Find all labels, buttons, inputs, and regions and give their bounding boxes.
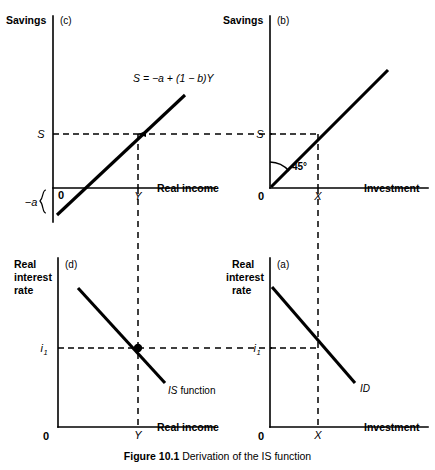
panel-a-id-label: (a) bbox=[277, 259, 289, 270]
panel-b-y-tick-label: S bbox=[256, 128, 264, 140]
panel-b-angle-label: 45° bbox=[292, 161, 307, 172]
panel-a: Real interest rate (a) i1 X 0 Investment… bbox=[226, 258, 428, 442]
panel-c-intercept-brace bbox=[40, 190, 46, 213]
panel-d-is-curve bbox=[78, 288, 165, 383]
panel-c-id-label: (c) bbox=[60, 15, 72, 26]
panel-a-curve-label: ID bbox=[360, 383, 370, 394]
panel-b-id-label: (b) bbox=[277, 15, 289, 26]
panel-d-id-label: (d) bbox=[65, 259, 77, 270]
panel-a-x-axis-label: Investment bbox=[364, 421, 420, 433]
panel-d-y-tick-label: i1 bbox=[40, 342, 47, 357]
panel-c-x-tick-label: Y bbox=[134, 190, 142, 202]
panel-b-45-degree-line bbox=[271, 70, 388, 187]
panel-d-x-tick-label: Y bbox=[134, 429, 142, 441]
figure-container: Savings (c) S Y 0 −a Real income S = −a … bbox=[0, 0, 435, 470]
panel-b-x-tick-label: X bbox=[313, 190, 322, 202]
panel-a-origin-label: 0 bbox=[258, 430, 264, 442]
panel-d-y-axis-label-line3: rate bbox=[14, 284, 33, 296]
panel-d-intersection-dot bbox=[134, 344, 142, 352]
panel-d: Real interest rate (d) i1 Y 0 Real incom… bbox=[14, 258, 219, 442]
panel-c: Savings (c) S Y 0 −a Real income S = −a … bbox=[6, 14, 219, 222]
panel-c-intercept-label: −a bbox=[25, 196, 38, 208]
panel-a-y-axis-label-line2: interest bbox=[226, 271, 264, 283]
panel-a-x-tick-label: X bbox=[313, 429, 322, 441]
panel-b-x-axis-label: Investment bbox=[364, 182, 420, 194]
panel-d-x-axis-label: Real income bbox=[157, 421, 219, 433]
figure-canvas: Savings (c) S Y 0 −a Real income S = −a … bbox=[0, 0, 435, 470]
panel-d-y-axis-label-line2: interest bbox=[14, 271, 52, 283]
panel-a-y-tick-label: i1 bbox=[253, 342, 260, 357]
panel-d-origin-label: 0 bbox=[43, 430, 49, 442]
panel-b: Savings (b) S X 0 45° Investment bbox=[223, 14, 428, 202]
panel-b-origin-label: 0 bbox=[258, 190, 264, 202]
figure-caption: Figure 10.1 Derivation of the IS functio… bbox=[0, 450, 435, 462]
panel-d-curve-label: ISfunction bbox=[168, 385, 215, 396]
panel-a-id-curve bbox=[272, 287, 355, 383]
panel-a-y-axis-label-line3: rate bbox=[232, 284, 251, 296]
panel-b-angle-arc bbox=[270, 162, 289, 171]
figure-caption-number: Figure 10.1 bbox=[124, 450, 179, 462]
panel-c-x-axis-label: Real income bbox=[157, 182, 219, 194]
figure-caption-body: Derivation of the IS function bbox=[182, 450, 311, 462]
panel-d-y-axis-label-line1: Real bbox=[14, 258, 36, 270]
panel-a-y-axis-label-line1: Real bbox=[232, 258, 254, 270]
panel-c-curve-label: S = −a + (1 − b)Y bbox=[133, 72, 215, 84]
panel-c-y-axis-label: Savings bbox=[6, 14, 46, 26]
panel-c-y-tick-label: S bbox=[37, 128, 45, 140]
panel-b-y-axis-label: Savings bbox=[223, 14, 263, 26]
panel-c-savings-curve bbox=[57, 95, 185, 215]
panel-c-origin-label: 0 bbox=[58, 189, 64, 201]
